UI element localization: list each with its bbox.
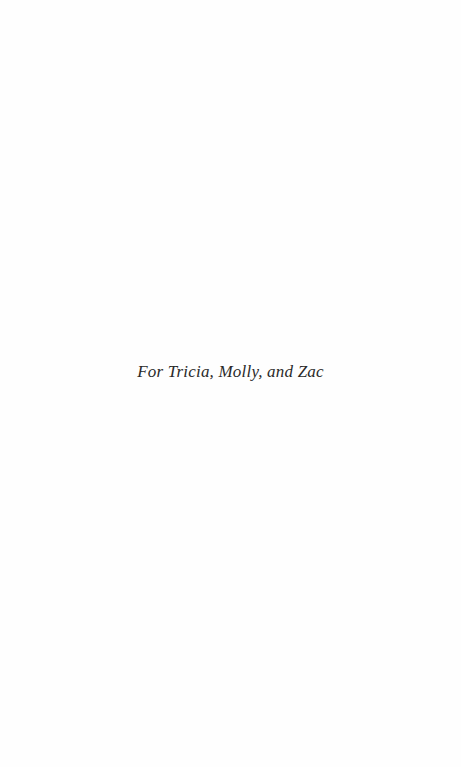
dedication-page: For Tricia, Molly, and Zac bbox=[0, 0, 461, 767]
dedication-text: For Tricia, Molly, and Zac bbox=[0, 360, 461, 384]
